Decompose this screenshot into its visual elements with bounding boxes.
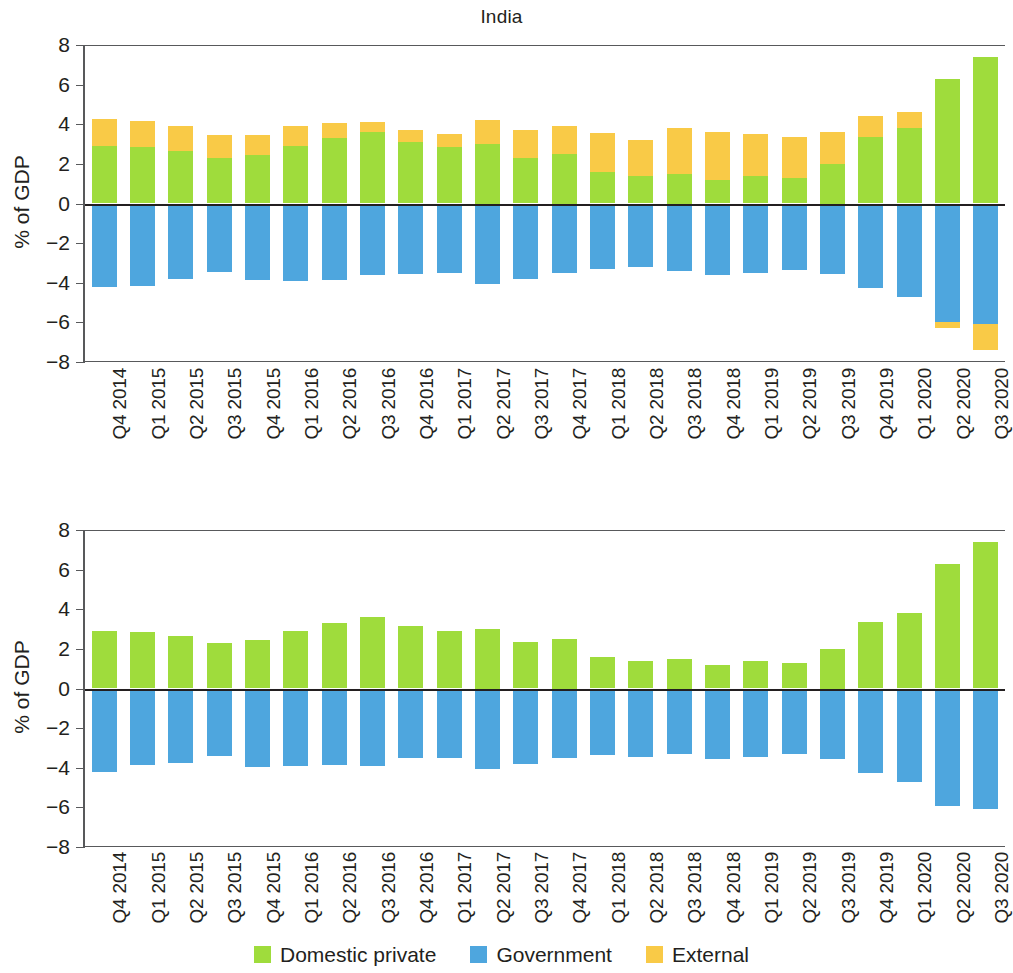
x-axis-label: Q1 2015 — [148, 852, 170, 924]
y-axis-label: −8 — [10, 835, 70, 859]
y-axis-tick — [76, 689, 85, 690]
bar-segment — [360, 689, 385, 766]
legend-item-domestic_private[interactable]: Domestic private — [254, 944, 436, 965]
bar-segment — [168, 689, 193, 763]
x-axis-label: Q3 2020 — [991, 852, 1013, 924]
bar-segment — [360, 204, 385, 275]
x-axis-label: Q1 2020 — [914, 852, 936, 924]
bar-segment — [475, 689, 500, 769]
bar-segment — [782, 689, 807, 754]
y-axis-label: 0 — [10, 677, 70, 701]
bar-segment — [283, 204, 308, 281]
y-axis-tick — [76, 164, 85, 165]
bar-segment — [705, 204, 730, 275]
bar-segment — [207, 643, 232, 689]
bar-segment — [360, 617, 385, 688]
x-axis-label: Q1 2016 — [301, 852, 323, 924]
x-axis-label: Q1 2020 — [914, 368, 936, 440]
bar-segment — [207, 158, 232, 204]
bar-segment — [782, 663, 807, 689]
x-axis-label: Q2 2018 — [646, 852, 668, 924]
y-axis-tick — [76, 124, 85, 125]
zero-line-top — [85, 204, 1005, 206]
legend-label: External — [672, 944, 749, 965]
bar-segment — [973, 324, 998, 350]
y-axis-tick — [76, 322, 85, 323]
x-axis-label: Q2 2018 — [646, 368, 668, 440]
bar-segment — [245, 689, 270, 767]
y-axis-tick — [76, 85, 85, 86]
y-axis-label: −4 — [10, 271, 70, 295]
bar-segment — [628, 176, 653, 204]
bar-segment — [513, 130, 538, 158]
x-axis-label: Q3 2016 — [378, 368, 400, 440]
y-axis-label: −2 — [10, 716, 70, 740]
x-axis-label: Q4 2019 — [876, 368, 898, 440]
legend-item-government[interactable]: Government — [470, 944, 612, 965]
bar-segment — [973, 204, 998, 325]
bar-segment — [437, 689, 462, 758]
bar-segment — [322, 623, 347, 688]
legend-swatch-icon — [646, 946, 663, 963]
x-axis-label: Q1 2018 — [608, 368, 630, 440]
bar-segment — [935, 204, 960, 323]
bar-segment — [398, 142, 423, 203]
bar-segment — [897, 128, 922, 203]
x-axis-label: Q2 2015 — [186, 852, 208, 924]
bar-segment — [820, 689, 845, 759]
x-axis-label: Q2 2017 — [493, 852, 515, 924]
bar-segment — [168, 636, 193, 689]
x-axis-label: Q1 2017 — [454, 368, 476, 440]
bar-segment — [552, 689, 577, 758]
y-axis-label: 6 — [10, 558, 70, 582]
x-axis-label: Q2 2020 — [953, 852, 975, 924]
x-axis-label: Q2 2019 — [799, 368, 821, 440]
bar-segment — [743, 204, 768, 273]
bar-segment — [513, 204, 538, 279]
y-axis-label: −6 — [10, 310, 70, 334]
x-axis-label: Q2 2020 — [953, 368, 975, 440]
bar-segment — [437, 147, 462, 203]
y-axis-label: −8 — [10, 350, 70, 374]
bar-segment — [590, 133, 615, 172]
bar-segment — [360, 132, 385, 203]
bar-segment — [820, 132, 845, 164]
bar-segment — [322, 138, 347, 203]
bar-segment — [935, 564, 960, 689]
legend-label: Government — [496, 944, 612, 965]
y-axis-tick — [76, 728, 85, 729]
bar-segment — [283, 146, 308, 203]
y-axis-tick — [76, 530, 85, 531]
y-axis-tick — [76, 847, 85, 848]
bar-segment — [92, 631, 117, 688]
bar-segment — [360, 122, 385, 132]
bar-segment — [858, 622, 883, 688]
bar-segment — [897, 613, 922, 688]
legend-item-external[interactable]: External — [646, 944, 749, 965]
bar-segment — [207, 689, 232, 756]
y-axis-tick — [76, 204, 85, 205]
y-axis-tick — [76, 807, 85, 808]
bar-segment — [245, 155, 270, 204]
bar-segment — [437, 631, 462, 688]
x-axis-label: Q4 2015 — [263, 368, 285, 440]
bar-segment — [743, 661, 768, 689]
x-axis-label: Q1 2019 — [761, 368, 783, 440]
bar-segment — [820, 164, 845, 204]
plot-area-bottom — [83, 530, 1005, 847]
y-axis-label: −4 — [10, 756, 70, 780]
bar-segment — [513, 158, 538, 204]
x-axis-label: Q3 2017 — [531, 852, 553, 924]
bar-segment — [513, 689, 538, 764]
y-axis-tick — [76, 570, 85, 571]
x-axis-label: Q3 2020 — [991, 368, 1013, 440]
bar-segment — [935, 689, 960, 807]
bar-segment — [130, 204, 155, 286]
y-axis-tick — [76, 649, 85, 650]
x-axis-label: Q4 2016 — [416, 368, 438, 440]
bar-segment — [245, 135, 270, 155]
bar-segment — [552, 126, 577, 154]
bar-segment — [283, 631, 308, 688]
x-label-group-bottom: Q4 2014Q1 2015Q2 2015Q3 2015Q4 2015Q1 20… — [83, 852, 1003, 952]
bar-segment — [322, 123, 347, 138]
